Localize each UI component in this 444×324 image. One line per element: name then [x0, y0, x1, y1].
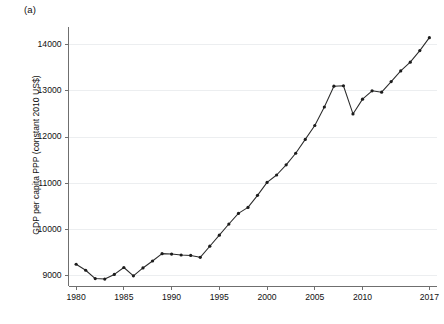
y-tick-label: 10000 — [38, 224, 62, 234]
y-tick-label: 13000 — [38, 85, 62, 95]
data-point — [313, 124, 316, 127]
data-point — [285, 163, 288, 166]
data-point — [170, 252, 173, 255]
data-point — [160, 252, 163, 255]
data-point — [428, 36, 431, 39]
data-point — [180, 253, 183, 256]
data-point-markers-group — [75, 36, 431, 281]
data-point — [265, 181, 268, 184]
x-tick-label: 2005 — [305, 292, 324, 302]
data-point — [94, 277, 97, 280]
data-point — [141, 266, 144, 269]
data-point — [342, 84, 345, 87]
data-point — [294, 152, 297, 155]
chart-figure: (a) GDP per capita PPP (constant 2010 US… — [0, 0, 444, 324]
data-point — [151, 259, 154, 262]
data-point — [132, 274, 135, 277]
data-point — [418, 49, 421, 52]
data-point — [103, 277, 106, 280]
x-tick-label: 1980 — [67, 292, 86, 302]
data-point — [113, 273, 116, 276]
data-point — [227, 222, 230, 225]
data-point — [75, 263, 78, 266]
x-tick-label: 2000 — [258, 292, 277, 302]
data-point — [361, 98, 364, 101]
x-tick-label: 1990 — [162, 292, 181, 302]
data-point — [380, 91, 383, 94]
data-point — [246, 206, 249, 209]
chart-plot-area: 90001000011000120001300014000 1980198519… — [0, 0, 444, 324]
data-point — [218, 234, 221, 237]
data-point — [323, 105, 326, 108]
y-tick-label: 9000 — [42, 270, 61, 280]
data-series-line — [76, 38, 429, 279]
data-point — [370, 89, 373, 92]
data-point — [237, 212, 240, 215]
data-point — [409, 61, 412, 64]
data-point — [390, 80, 393, 83]
data-point — [122, 266, 125, 269]
x-axis-ticks-group: 19801985199019952000200520102017 — [67, 286, 440, 302]
x-tick-label: 2010 — [353, 292, 372, 302]
y-axis-ticks-group: 90001000011000120001300014000 — [38, 39, 69, 280]
data-point — [275, 173, 278, 176]
y-tick-label: 14000 — [38, 39, 62, 49]
data-point — [332, 85, 335, 88]
data-point — [84, 269, 87, 272]
x-tick-label: 1985 — [114, 292, 133, 302]
gridlines-group — [69, 45, 438, 276]
data-point — [189, 254, 192, 257]
data-point — [208, 245, 211, 248]
data-point — [351, 112, 354, 115]
data-point — [304, 138, 307, 141]
y-tick-label: 11000 — [38, 178, 61, 188]
data-point — [199, 256, 202, 259]
data-point — [399, 69, 402, 72]
y-tick-label: 12000 — [38, 131, 62, 141]
data-point — [256, 194, 259, 197]
x-tick-label: 1995 — [210, 292, 229, 302]
x-tick-label: 2017 — [420, 292, 439, 302]
